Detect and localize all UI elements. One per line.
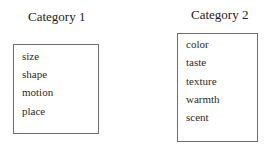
category-2-item-warmth: warmth <box>186 94 220 105</box>
category-1-title: Category 1 <box>28 10 85 23</box>
category-2-item-color: color <box>186 39 209 50</box>
category-2-item-scent: scent <box>186 112 209 123</box>
category-1-item-shape: shape <box>22 69 47 80</box>
category-1-item-place: place <box>22 106 45 117</box>
category-2-box: color taste texture warmth scent <box>177 33 258 142</box>
category-1-box: size shape motion place <box>13 44 99 134</box>
category-2-item-taste: taste <box>186 57 206 68</box>
category-2-item-texture: texture <box>186 76 217 87</box>
category-1-item-size: size <box>22 51 39 62</box>
category-1-item-motion: motion <box>22 87 53 98</box>
category-2-title: Category 2 <box>191 8 248 21</box>
